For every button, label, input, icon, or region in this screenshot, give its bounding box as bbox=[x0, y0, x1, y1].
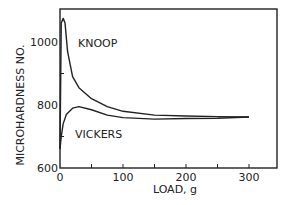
hardness-chart: 0100200300 6008001000 KNOOP VICKERS LOAD… bbox=[0, 0, 294, 205]
svg-text:300: 300 bbox=[239, 171, 260, 184]
y-axis-label: MICROHARDNESS NO. bbox=[14, 44, 27, 165]
svg-text:800: 800 bbox=[37, 99, 58, 112]
x-axis-label: LOAD, g bbox=[153, 183, 197, 196]
svg-text:1000: 1000 bbox=[30, 36, 58, 49]
knoop-label: KNOOP bbox=[78, 37, 118, 50]
vickers-label: VICKERS bbox=[75, 128, 122, 141]
svg-text:600: 600 bbox=[37, 162, 58, 175]
x-axis-ticks: 0100200300 bbox=[57, 164, 260, 184]
y-axis-ticks: 6008001000 bbox=[30, 36, 64, 175]
svg-text:100: 100 bbox=[113, 171, 134, 184]
plot-frame bbox=[60, 9, 277, 168]
